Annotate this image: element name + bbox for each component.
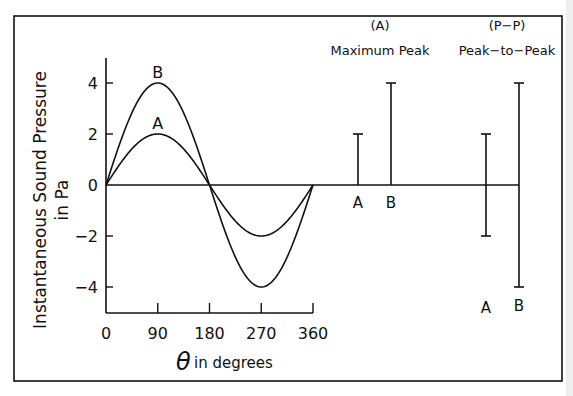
max-peak-label-b: B bbox=[386, 194, 396, 212]
diagram-canvas: Instantaneous Sound Pressure in Pa −4−20… bbox=[0, 0, 573, 396]
x-axis-label: in degrees bbox=[194, 354, 273, 372]
y-tick-label: −4 bbox=[74, 278, 98, 297]
peak-to-peak-heading: Peak−to−Peak bbox=[459, 43, 556, 58]
x-tick-label: 180 bbox=[194, 324, 225, 343]
scan-edge-strip bbox=[566, 0, 573, 396]
y-tick-label: 0 bbox=[88, 176, 98, 195]
waveforms: AB bbox=[106, 63, 313, 287]
y-tick-label: 4 bbox=[88, 74, 98, 93]
y-axis-label-units: in Pa bbox=[52, 180, 72, 221]
y-tick-label: −2 bbox=[74, 227, 98, 246]
x-axis-symbol-theta: θ bbox=[176, 348, 191, 376]
peak-to-peak-heading-symbol: (P−P) bbox=[489, 18, 526, 33]
y-axis-label: Instantaneous Sound Pressure bbox=[30, 71, 50, 329]
x-tick-label: 360 bbox=[298, 324, 329, 343]
peak-bars: ABAB bbox=[353, 83, 524, 317]
x-ticks: 090180270360 bbox=[101, 303, 328, 343]
peak-to-peak-label-b: B bbox=[514, 297, 524, 315]
y-tick-label: 2 bbox=[88, 125, 98, 144]
max-peak-heading: Maximum Peak bbox=[330, 43, 430, 58]
waveform-label-b: B bbox=[152, 63, 163, 82]
max-peak-heading-symbol: (A) bbox=[370, 18, 389, 33]
x-tick-label: 0 bbox=[101, 324, 111, 343]
x-tick-label: 90 bbox=[148, 324, 168, 343]
max-peak-label-a: A bbox=[353, 194, 364, 212]
waveform-label-a: A bbox=[152, 114, 163, 133]
figure: Instantaneous Sound Pressure in Pa −4−20… bbox=[0, 0, 573, 396]
peak-to-peak-label-a: A bbox=[481, 299, 492, 317]
figure-frame bbox=[14, 16, 562, 381]
x-tick-label: 270 bbox=[246, 324, 277, 343]
